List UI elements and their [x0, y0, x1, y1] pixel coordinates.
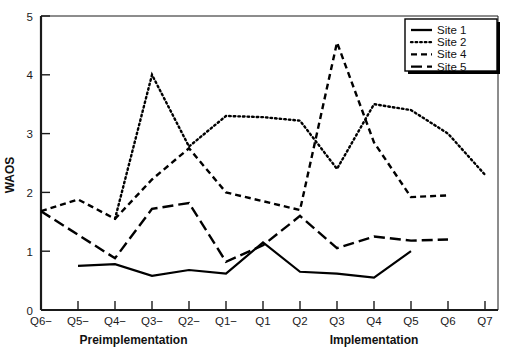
- x-group-labels: PreimplementationImplementation: [79, 333, 418, 347]
- legend-label-site-1: Site 1: [437, 24, 466, 36]
- x-axis-ticks: Q6−Q5−Q4−Q3−Q2−Q1−Q1Q2Q3Q4Q5Q6Q7: [30, 301, 493, 327]
- x-tick-label: Q1: [255, 315, 270, 327]
- series-line-site-1: [78, 242, 411, 277]
- chart-container: 012345 Q6−Q5−Q4−Q3−Q2−Q1−Q1Q2Q3Q4Q5Q6Q7 …: [0, 0, 511, 355]
- y-tick-label: 5: [27, 11, 33, 23]
- legend-shadow-right: [497, 22, 500, 74]
- line-chart: 012345 Q6−Q5−Q4−Q3−Q2−Q1−Q1Q2Q3Q4Q5Q6Q7 …: [0, 0, 511, 355]
- legend-label-site-4: Site 4: [437, 48, 467, 60]
- y-axis-title: WAOS: [3, 157, 17, 194]
- x-tick-label: Q2−: [178, 315, 200, 327]
- x-tick-label: Q6: [440, 315, 455, 327]
- series-line-site-2: [115, 75, 485, 219]
- y-axis-ticks: 012345: [27, 11, 50, 317]
- legend-label-site-5: Site 5: [437, 61, 466, 73]
- x-tick-label: Q5−: [67, 315, 89, 327]
- series-line-site-4: [41, 42, 448, 218]
- x-group-label: Implementation: [330, 333, 419, 347]
- x-tick-label: Q1−: [215, 315, 237, 327]
- legend-label-site-2: Site 2: [437, 36, 466, 48]
- x-tick-label: Q5: [403, 315, 418, 327]
- x-tick-label: Q3−: [141, 315, 163, 327]
- y-tick-label: 4: [27, 69, 34, 81]
- x-tick-label: Q2: [292, 315, 307, 327]
- x-tick-label: Q6−: [30, 315, 52, 327]
- x-tick-label: Q3: [329, 315, 344, 327]
- x-tick-label: Q7: [477, 315, 492, 327]
- y-tick-label: 1: [27, 246, 33, 258]
- y-tick-label: 2: [27, 187, 33, 199]
- chart-legend[interactable]: Site 1Site 2Site 4Site 5: [405, 19, 500, 74]
- x-tick-label: Q4−: [104, 315, 126, 327]
- x-group-label: Preimplementation: [79, 333, 187, 347]
- x-tick-label: Q4: [366, 315, 382, 327]
- series-group: [41, 42, 485, 277]
- y-tick-label: 3: [27, 128, 33, 140]
